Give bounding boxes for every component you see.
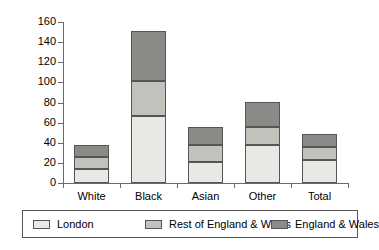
legend-label: London	[57, 218, 94, 230]
bar-segment	[131, 81, 166, 115]
bar-segment	[188, 127, 223, 145]
bar-segment	[245, 145, 280, 183]
legend-item[interactable]: London	[33, 218, 94, 230]
y-axis-tick-label: 100	[0, 76, 56, 87]
y-axis-tick	[58, 163, 63, 164]
plot-area: 020406080100120140160 WhiteBlackAsianOth…	[0, 0, 378, 205]
bar-segment	[302, 160, 337, 183]
legend-swatch-icon	[145, 220, 162, 229]
y-axis-tick-label: 0	[0, 177, 56, 188]
legend-swatch-icon	[33, 220, 50, 229]
legend-item[interactable]: England & Wales	[271, 218, 379, 230]
y-axis-tick	[58, 143, 63, 144]
x-axis-tick	[177, 183, 178, 188]
y-axis-tick	[58, 62, 63, 63]
y-axis-tick-label: 80	[0, 97, 56, 108]
y-axis-tick-label: 120	[0, 56, 56, 67]
bar-segment	[131, 31, 166, 81]
x-axis-tick	[120, 183, 121, 188]
y-axis-tick	[58, 123, 63, 124]
bar-segment	[302, 147, 337, 160]
bar-segment	[74, 145, 109, 157]
legend-item[interactable]: Rest of England & Wales	[145, 218, 291, 230]
bar-white	[74, 145, 109, 183]
bar-segment	[302, 134, 337, 147]
x-axis-tick	[63, 183, 64, 188]
bar-segment	[245, 102, 280, 127]
x-axis-label-total: Total	[280, 190, 360, 202]
x-axis-tick	[234, 183, 235, 188]
y-axis-tick-label: 20	[0, 157, 56, 168]
y-axis-tick	[58, 42, 63, 43]
x-axis-tick	[291, 183, 292, 188]
legend-label: England & Wales	[295, 218, 379, 230]
x-axis-line	[63, 183, 348, 184]
y-axis-tick-label: 140	[0, 36, 56, 47]
bar-black	[131, 31, 166, 183]
y-axis-line	[63, 22, 64, 184]
bar-segment	[74, 169, 109, 183]
y-axis-tick	[58, 82, 63, 83]
legend: LondonRest of England & WalesEngland & W…	[22, 210, 358, 238]
x-axis-tick	[348, 183, 349, 188]
y-axis-tick-label: 160	[0, 16, 56, 27]
bar-segment	[245, 127, 280, 145]
bar-segment	[188, 145, 223, 162]
bar-segment	[74, 157, 109, 169]
legend-swatch-icon	[271, 220, 288, 229]
bar-segment	[188, 162, 223, 183]
y-axis-tick	[58, 103, 63, 104]
bar-total	[302, 134, 337, 183]
bar-asian	[188, 127, 223, 183]
bar-other	[245, 102, 280, 184]
y-axis-tick-label: 60	[0, 117, 56, 128]
bar-segment	[131, 116, 166, 183]
y-axis-tick	[58, 22, 63, 23]
y-axis-tick-label: 40	[0, 137, 56, 148]
